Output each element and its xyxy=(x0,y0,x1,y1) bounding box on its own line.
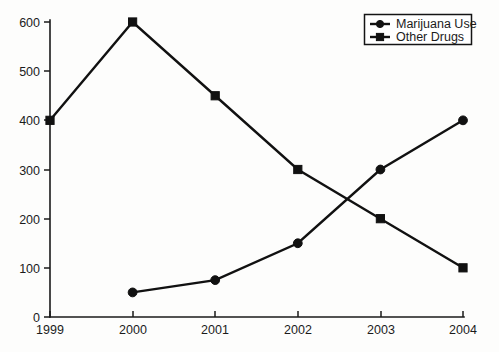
x-tick-label-2000: 2000 xyxy=(119,323,147,337)
series-line-marijuana-use xyxy=(133,120,463,292)
data-point-marijuana-use-2003 xyxy=(376,165,385,174)
series-layer xyxy=(46,18,468,297)
data-point-other-drugs-2001 xyxy=(211,92,219,100)
series-line-other-drugs xyxy=(50,22,463,268)
y-tick-label-400: 400 xyxy=(19,114,40,128)
x-tick-label-2002: 2002 xyxy=(284,323,312,337)
y-tick-label-300: 300 xyxy=(19,164,40,178)
x-tick-label-1999: 1999 xyxy=(36,323,64,337)
x-tick-group xyxy=(50,311,463,317)
legend-circle-marker-icon xyxy=(376,20,383,27)
data-point-marijuana-use-2000 xyxy=(128,288,137,297)
data-point-other-drugs-2002 xyxy=(294,165,302,173)
chart-page: 600 500 400 300 200 100 0 1999 2000 2001… xyxy=(0,0,499,352)
data-point-other-drugs-2003 xyxy=(376,215,384,223)
data-point-other-drugs-2004 xyxy=(459,264,467,272)
x-tick-label-2001: 2001 xyxy=(201,323,229,337)
y-tick-group xyxy=(44,22,50,317)
y-tick-label-200: 200 xyxy=(19,213,40,227)
axis-group xyxy=(50,20,464,317)
y-tick-label-600: 600 xyxy=(19,16,40,30)
x-tick-label-2004: 2004 xyxy=(449,323,477,337)
legend-label-other-drugs: Other Drugs xyxy=(396,30,464,44)
line-chart: 600 500 400 300 200 100 0 1999 2000 2001… xyxy=(0,0,499,352)
data-point-marijuana-use-2004 xyxy=(459,116,468,125)
y-tick-labels: 600 500 400 300 200 100 0 xyxy=(19,16,40,325)
data-point-other-drugs-2000 xyxy=(129,18,137,26)
y-tick-label-100: 100 xyxy=(19,262,40,276)
data-point-marijuana-use-2002 xyxy=(293,239,302,248)
data-point-marijuana-use-2001 xyxy=(211,276,220,285)
legend-label-marijuana-use: Marijuana Use xyxy=(396,17,477,31)
chart-legend: Marijuana Use Other Drugs xyxy=(365,15,477,45)
data-point-other-drugs-1999 xyxy=(46,116,54,124)
x-tick-label-2003: 2003 xyxy=(367,323,395,337)
y-tick-label-500: 500 xyxy=(19,65,40,79)
x-tick-labels: 1999 2000 2001 2002 2003 2004 xyxy=(36,323,477,337)
legend-square-marker-icon xyxy=(376,33,383,40)
